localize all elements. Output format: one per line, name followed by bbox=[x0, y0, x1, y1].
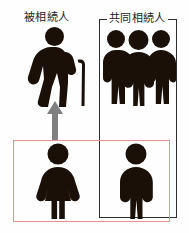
upward-arrow-icon bbox=[44, 101, 66, 141]
elderly-person-with-cane-icon bbox=[24, 27, 90, 107]
highlight-rectangle bbox=[13, 140, 170, 222]
inheritance-diagram: 被相続人 共同相続人 bbox=[0, 0, 189, 233]
decedent-label: 被相続人 bbox=[24, 11, 69, 24]
coheirs-label: 共同相続人 bbox=[107, 12, 168, 25]
three-standing-people-icon bbox=[101, 28, 176, 106]
